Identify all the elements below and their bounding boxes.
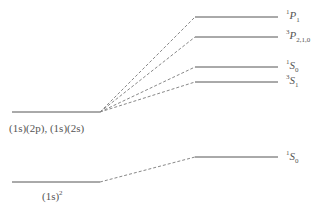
j-value: 2,1,0 — [296, 36, 310, 44]
j-value: 1 — [296, 16, 300, 24]
ground-config-base: (1s) — [42, 190, 59, 202]
connector-1P1 — [100, 17, 195, 112]
multiplicity: 3 — [286, 73, 290, 81]
ground-config-label: (1s)2 — [42, 190, 63, 202]
term-label-3P210: 3P2,1,0 — [286, 29, 310, 41]
connector-3S1 — [100, 82, 195, 112]
multiplicity: 1 — [286, 58, 290, 66]
term-label-1S0-ground: 1S0 — [286, 150, 299, 162]
j-value: 0 — [295, 66, 299, 74]
energy-level-diagram — [0, 0, 322, 212]
j-value: 0 — [295, 157, 299, 165]
connector-1S0-ground — [100, 157, 195, 182]
term-label-1S0-excited: 1S0 — [286, 59, 299, 71]
term-label-1P1: 1P1 — [286, 9, 300, 21]
connector-3P210 — [100, 37, 195, 112]
connector-1S0-excited — [100, 67, 195, 112]
term-label-3S1: 3S1 — [286, 74, 299, 86]
multiplicity: 1 — [286, 149, 290, 157]
multiplicity: 1 — [286, 8, 290, 16]
multiplicity: 3 — [286, 28, 290, 36]
j-value: 1 — [295, 81, 299, 89]
ground-config-exponent: 2 — [59, 189, 63, 197]
excited-config-label: (1s)(2p), (1s)(2s) — [9, 122, 84, 134]
